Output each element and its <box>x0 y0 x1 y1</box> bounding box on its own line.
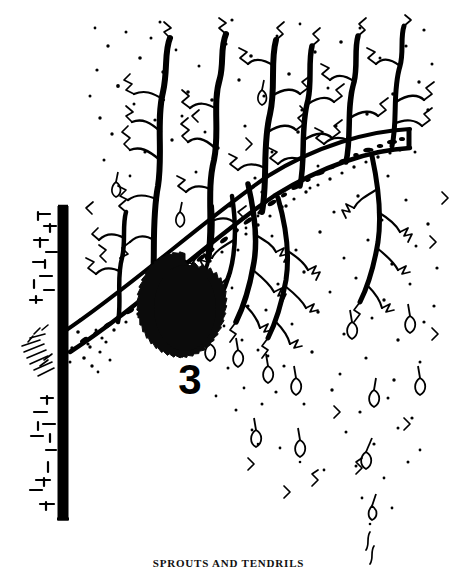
vine-illustration <box>0 0 457 568</box>
vine-trunk <box>57 206 69 520</box>
figure-root: 3 SPROUTS AND TENDRILS <box>0 0 457 568</box>
figure-number: 3 <box>160 357 220 403</box>
figure-caption: SPROUTS AND TENDRILS <box>0 557 457 568</box>
canvas-background <box>0 0 457 568</box>
